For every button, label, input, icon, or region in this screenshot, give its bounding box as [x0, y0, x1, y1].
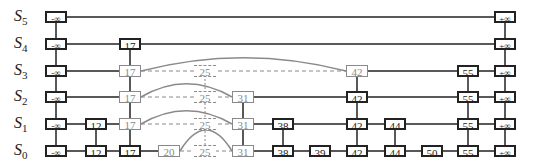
node-neg_inf-level-2: -∞: [45, 91, 67, 103]
level-label-name: S: [14, 87, 22, 104]
node-neg_inf-level-5: -∞: [45, 11, 67, 23]
node-31-level-2: 31: [232, 91, 254, 103]
node-55-level-0: 55: [457, 145, 479, 157]
skip-list-links: [0, 0, 542, 168]
level-label-index: 1: [22, 122, 28, 134]
node-38-level-1: 38: [272, 118, 294, 130]
node-39-level-0: 39: [309, 145, 331, 157]
node-neg_inf-level-1: -∞: [45, 118, 67, 130]
level-label-index: 3: [22, 69, 28, 81]
node-55-level-2: 55: [457, 91, 479, 103]
node-pos_inf-level-0: +∞: [494, 145, 516, 157]
level-label-s5: S5: [14, 7, 28, 27]
node-neg_inf-level-4: -∞: [45, 38, 67, 50]
level-label-name: S: [14, 114, 22, 131]
node-38-level-0: 38: [272, 145, 294, 157]
node-25-level-2: 25: [194, 91, 216, 103]
node-31-level-1: 31: [232, 118, 254, 130]
level-label-name: S: [14, 7, 22, 24]
node-42-level-1: 42: [346, 118, 368, 130]
node-25-level-3: 25: [194, 65, 216, 77]
node-12-level-1: 12: [85, 118, 107, 130]
level-label-s3: S3: [14, 61, 28, 81]
node-44-level-1: 44: [384, 118, 406, 130]
node-42-level-0: 42: [346, 145, 368, 157]
level-label-s4: S4: [14, 34, 28, 54]
level-label-index: 0: [22, 149, 28, 161]
node-17-level-2: 17: [119, 91, 141, 103]
node-17-level-3: 17: [119, 65, 141, 77]
node-pos_inf-level-5: +∞: [494, 11, 516, 23]
node-50-level-0: 50: [421, 145, 443, 157]
node-25-level-0: 25: [194, 145, 216, 157]
node-25-level-1: 25: [194, 118, 216, 130]
level-label-index: 4: [22, 42, 28, 54]
node-31-level-0: 31: [232, 145, 254, 157]
node-pos_inf-level-4: +∞: [494, 38, 516, 50]
level-label-s0: S0: [14, 141, 28, 161]
level-label-name: S: [14, 141, 22, 158]
node-55-level-1: 55: [457, 118, 479, 130]
node-neg_inf-level-0: -∞: [45, 145, 67, 157]
level-label-name: S: [14, 61, 22, 78]
node-55-level-3: 55: [457, 65, 479, 77]
node-17-level-0: 17: [119, 145, 141, 157]
node-42-level-2: 42: [346, 91, 368, 103]
skip-list-diagram: S5S4S3S2S1S0 -∞-∞-∞-∞-∞-∞121217171717172…: [0, 0, 542, 168]
level-label-name: S: [14, 34, 22, 51]
node-pos_inf-level-1: +∞: [494, 118, 516, 130]
node-17-level-4: 17: [119, 38, 141, 50]
node-44-level-0: 44: [384, 145, 406, 157]
node-pos_inf-level-2: +∞: [494, 91, 516, 103]
node-20-level-0: 20: [158, 145, 180, 157]
level-label-s2: S2: [14, 87, 28, 107]
level-label-index: 2: [22, 95, 28, 107]
level-label-index: 5: [22, 15, 28, 27]
level-label-s1: S1: [14, 114, 28, 134]
node-42-level-3: 42: [346, 65, 368, 77]
node-12-level-0: 12: [85, 145, 107, 157]
node-17-level-1: 17: [119, 118, 141, 130]
node-pos_inf-level-3: +∞: [494, 65, 516, 77]
node-neg_inf-level-3: -∞: [45, 65, 67, 77]
